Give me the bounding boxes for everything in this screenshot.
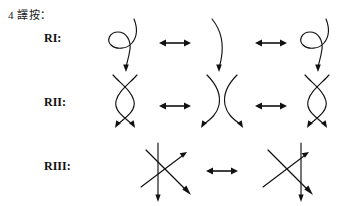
- diagram-ri-right: [296, 16, 344, 74]
- diagram-ri-middle: [200, 16, 240, 74]
- equiv-arrow-rii-1: [158, 100, 192, 112]
- diagram-riii-right: [254, 140, 324, 204]
- equiv-arrow-rii-2: [254, 100, 288, 112]
- translator-note-header: 4 譯按：: [8, 8, 52, 22]
- diagram-ri-left: [104, 16, 152, 74]
- equiv-arrow-ri-2: [254, 37, 288, 49]
- reidemeister-moves-figure: 4 譯按： RI: RII:: [0, 0, 349, 206]
- row-label-riii: RIII:: [44, 159, 71, 173]
- row-label-rii: RII:: [44, 95, 66, 109]
- equiv-arrow-riii-1: [205, 165, 239, 177]
- diagram-rii-middle: [194, 73, 250, 131]
- diagram-rii-right: [296, 73, 344, 131]
- diagram-rii-left: [104, 73, 152, 131]
- row-label-ri: RI:: [44, 31, 61, 45]
- equiv-arrow-ri-1: [158, 37, 192, 49]
- diagram-riii-left: [134, 140, 204, 204]
